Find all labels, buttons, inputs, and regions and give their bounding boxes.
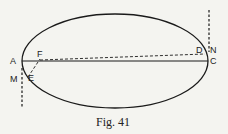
label-C: C bbox=[210, 56, 217, 66]
figure-caption: Fig. 41 bbox=[96, 115, 130, 129]
label-F: F bbox=[37, 49, 43, 59]
label-E: E bbox=[28, 73, 34, 83]
label-D: D bbox=[196, 45, 203, 55]
label-N: N bbox=[210, 45, 217, 55]
figure-diagram: A F M E D N C Fig. 41 bbox=[0, 0, 228, 134]
dashed-line-FD bbox=[40, 54, 205, 60]
label-M: M bbox=[10, 74, 18, 84]
label-A: A bbox=[10, 56, 16, 66]
